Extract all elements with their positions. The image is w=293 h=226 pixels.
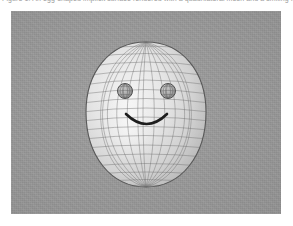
figure-caption-strip: Figure 1. An egg-shaped implicit surface… <box>0 0 293 8</box>
egg-body[interactable] <box>82 42 210 187</box>
right-eye[interactable] <box>161 84 176 99</box>
left-eye[interactable] <box>118 84 133 99</box>
figure-caption-text: Figure 1. An egg-shaped implicit surface… <box>2 0 293 3</box>
egg-scene-svg <box>11 11 281 214</box>
screenshot-root: Figure 1. An egg-shaped implicit surface… <box>0 0 293 226</box>
render-viewport[interactable] <box>11 11 281 214</box>
